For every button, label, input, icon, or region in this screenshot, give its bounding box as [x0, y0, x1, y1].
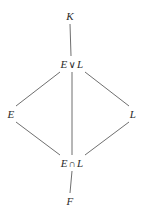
node-operand-left: E [61, 58, 68, 70]
node-operator: ∩ [68, 158, 77, 169]
node-operand-right: L [77, 58, 83, 70]
node-operand-left: E [61, 157, 68, 169]
node-label-f: F [67, 196, 74, 207]
edge-e-enl [16, 122, 60, 155]
edge-evl-e [16, 72, 60, 106]
lattice-diagram: KE∨LELE∩LF [0, 0, 146, 221]
edge-l-enl [85, 122, 129, 155]
node-operand-right: L [77, 157, 83, 169]
edge-k-evl [70, 24, 71, 56]
node-label-enl: E∩L [61, 158, 84, 169]
edge-enl-f [70, 171, 72, 193]
node-label-e: E [8, 109, 15, 120]
edge-layer [0, 0, 146, 221]
node-label-evl: E∨L [61, 59, 84, 70]
edge-evl-l [85, 72, 129, 106]
node-label-l: L [130, 109, 136, 120]
node-label-k: K [66, 11, 74, 22]
